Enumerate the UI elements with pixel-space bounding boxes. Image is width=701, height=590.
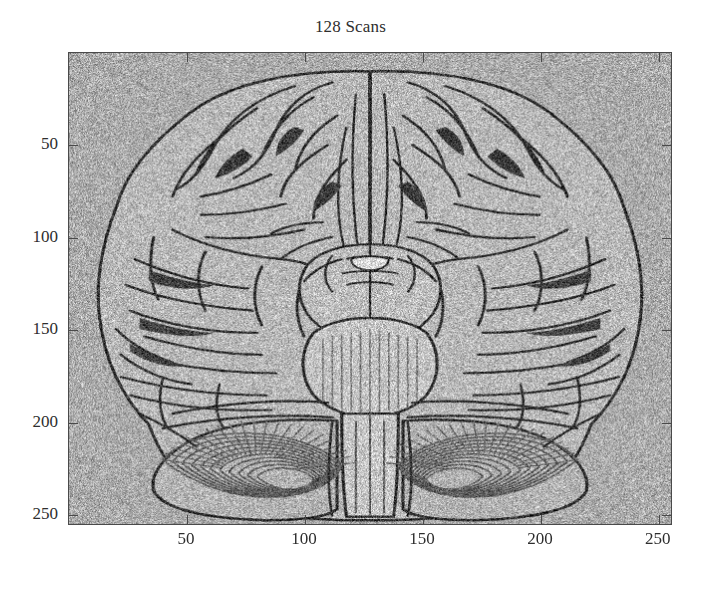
y-tick-label-100: 100 — [2, 228, 58, 245]
y-tick-label-50: 50 — [2, 135, 58, 152]
y-tick-50 — [69, 145, 78, 146]
x-tick-100 — [305, 53, 306, 62]
x-tick-150 — [423, 53, 424, 62]
x-tick-200 — [541, 53, 542, 62]
y-tick-100 — [662, 238, 671, 239]
figure-container: 128 Scans 50100150200250 50100150200250 — [0, 0, 701, 590]
y-tick-100 — [69, 238, 78, 239]
x-tick-250 — [659, 53, 660, 62]
x-tick-label-200: 200 — [510, 529, 570, 548]
y-axis-tick-labels: 50100150200250 — [0, 52, 58, 525]
y-tick-200 — [662, 423, 671, 424]
x-tick-200 — [541, 515, 542, 524]
x-axis-tick-labels: 50100150200250 — [68, 529, 672, 559]
y-tick-250 — [662, 515, 671, 516]
x-tick-50 — [187, 53, 188, 62]
y-tick-250 — [69, 515, 78, 516]
y-tick-label-200: 200 — [2, 413, 58, 430]
y-tick-label-250: 250 — [2, 505, 58, 522]
x-tick-150 — [423, 515, 424, 524]
x-tick-label-150: 150 — [392, 529, 452, 548]
x-tick-label-100: 100 — [274, 529, 334, 548]
plot-area — [68, 52, 672, 525]
x-tick-250 — [659, 515, 660, 524]
y-tick-150 — [662, 330, 671, 331]
x-tick-label-50: 50 — [156, 529, 216, 548]
chart-title: 128 Scans — [0, 17, 701, 37]
x-tick-100 — [305, 515, 306, 524]
y-tick-200 — [69, 423, 78, 424]
x-tick-label-250: 250 — [628, 529, 688, 548]
y-tick-150 — [69, 330, 78, 331]
y-tick-label-150: 150 — [2, 320, 58, 337]
x-tick-50 — [187, 515, 188, 524]
y-tick-50 — [662, 145, 671, 146]
brain-scan-image — [69, 53, 671, 524]
